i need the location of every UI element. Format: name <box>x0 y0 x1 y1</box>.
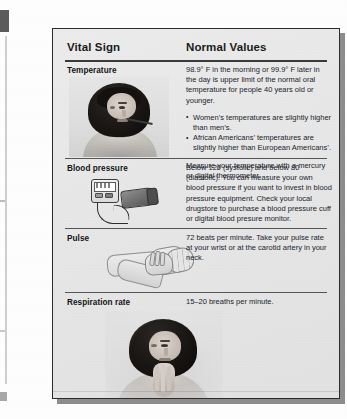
row-label-blood-pressure: Blood pressure <box>67 164 128 173</box>
page-edge-tick <box>0 330 5 332</box>
nose-shape <box>122 110 126 117</box>
temperature-bullet-list: Women’s temperatures are slightly higher… <box>186 113 332 154</box>
row-divider <box>65 228 327 229</box>
pulse-paragraph: 72 beats per minute. Take your pulse rat… <box>186 233 332 264</box>
list-item: Women’s temperatures are slightly higher… <box>186 113 332 133</box>
monitor-button-shape <box>95 193 103 198</box>
pulse-values-text: 72 beats per minute. Take your pulse rat… <box>186 233 332 271</box>
temperature-photo <box>69 77 169 157</box>
vital-signs-table-card: Vital Sign Normal Values Temperature 98.… <box>52 28 340 399</box>
finger-shape <box>160 252 166 266</box>
page-edge-tick <box>0 200 5 202</box>
page-edge-tick <box>0 392 7 401</box>
respiration-values-text: 15–20 breaths per minute. <box>186 297 332 314</box>
photo-vignette <box>105 311 223 399</box>
blood-pressure-monitor-illustration <box>73 175 173 227</box>
page-edge-mark <box>0 10 9 32</box>
cuff-end-shape <box>146 187 159 205</box>
row-divider <box>65 158 327 159</box>
eyebrow-shape <box>118 102 127 104</box>
photo-vignette <box>79 137 161 157</box>
column-header-normal-values: Normal Values <box>186 41 267 53</box>
temperature-paragraph: 98.9° F in the morning or 99.9° F later … <box>186 65 332 106</box>
row-label-respiration-rate: Respiration rate <box>67 298 130 307</box>
blood-pressure-values-text: Below 120 (systolic) and below 80 (diast… <box>186 163 332 231</box>
row-divider <box>65 292 327 293</box>
column-header-vital-sign: Vital Sign <box>67 41 120 53</box>
respiration-photo <box>105 311 223 399</box>
far-eye-shape <box>110 106 115 109</box>
row-label-temperature: Temperature <box>67 66 117 75</box>
scanned-page: Vital Sign Normal Values Temperature 98.… <box>0 0 347 419</box>
card-bottom-rule <box>53 391 339 392</box>
respiration-paragraph: 15–20 breaths per minute. <box>186 297 332 307</box>
monitor-digits-shape <box>96 183 111 188</box>
monitor-button-shape <box>105 193 113 198</box>
header-divider <box>65 60 327 62</box>
list-item: African Americans’ temperatures are slig… <box>186 133 332 153</box>
blood-pressure-paragraph: Below 120 (systolic) and below 80 (diast… <box>186 163 332 224</box>
page-edge-line <box>5 36 7 384</box>
row-label-pulse: Pulse <box>67 234 89 243</box>
near-eye-shape <box>119 106 125 109</box>
